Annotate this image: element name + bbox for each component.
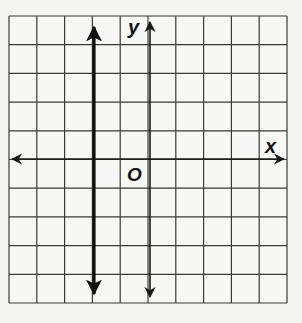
origin-label: O (127, 164, 142, 185)
x-axis-label: x (264, 135, 277, 157)
coordinate-plane: y x O (0, 0, 302, 323)
y-axis-label: y (127, 16, 140, 38)
